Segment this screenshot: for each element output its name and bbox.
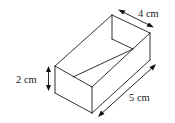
edge-bottom-right [92,60,150,113]
height-label: 2 cm [16,74,37,85]
edge-top-front-left-to-back-left [55,15,112,66]
inner-edge-left-floor [73,49,133,77]
arrowhead-icon [147,23,155,28]
height-dimension-arrow [46,66,51,91]
box-diagram: 4 cm 2 cm 5 cm [0,0,175,123]
edge-bottom-front [55,93,92,113]
length-dimension-arrow [98,64,156,117]
arrowhead-icon [118,10,126,15]
width-label: 4 cm [138,8,159,19]
inner-edge-back-floor [112,39,133,49]
arrowhead-icon [46,85,51,91]
edge-top-back-right-to-front-right [92,33,150,87]
length-label: 5 cm [129,92,150,103]
arrowhead-icon [46,66,51,72]
